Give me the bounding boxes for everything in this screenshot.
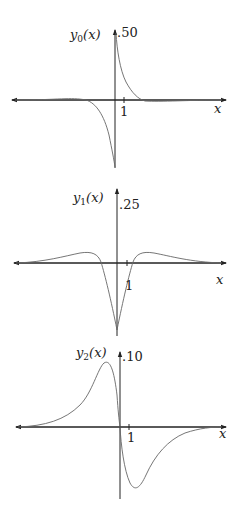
plot-y0: y0(x) .50 1 x xyxy=(12,25,226,168)
xlabel-0: x xyxy=(214,101,222,116)
ylabel-0: y0(x) xyxy=(69,27,101,44)
xlabel-1: x xyxy=(216,272,224,287)
xlabel-2: x xyxy=(219,426,227,441)
ylabel-1: y1(x) xyxy=(72,190,104,207)
ytick-label-0: .50 xyxy=(117,25,138,40)
plot-y2: y2(x) .10 1 x xyxy=(16,345,227,499)
chart-canvas: y0(x) .50 1 x y1(x) .25 1 x y2(x) .10 1 … xyxy=(0,0,240,513)
ytick-label-2: .10 xyxy=(122,349,143,364)
curve-y1 xyxy=(16,252,222,330)
xtick-label-1: 1 xyxy=(125,278,133,293)
xtick-label-0: 1 xyxy=(120,104,128,119)
plot-y1: y1(x) .25 1 x xyxy=(14,189,226,336)
ylabel-2: y2(x) xyxy=(75,345,107,362)
xtick-label-2: 1 xyxy=(127,430,135,445)
ytick-label-1: .25 xyxy=(119,197,140,212)
